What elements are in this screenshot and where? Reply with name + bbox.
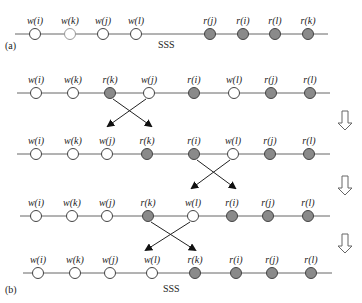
swap-arrows-b3 (146, 222, 195, 250)
read-node (227, 211, 238, 222)
read-node (231, 268, 242, 279)
node-label: w(i) (30, 254, 47, 266)
node-label: r(i) (229, 254, 243, 266)
node-label: r(j) (264, 74, 278, 86)
node-label: r(l) (268, 15, 282, 27)
sequence-row-b3: w(i)w(k)w(j)r(k)w(l)r(i)r(j)r(l) (20, 197, 330, 222)
write-node (31, 149, 42, 160)
node-label: w(k) (61, 15, 79, 27)
node-label: w(i) (27, 15, 44, 27)
node-label: r(l) (304, 254, 318, 266)
read-node (267, 268, 278, 279)
sss-label-b: SSS (163, 283, 180, 294)
write-node (131, 29, 142, 40)
write-node (188, 211, 199, 222)
node-label: w(i) (28, 197, 45, 209)
write-node (31, 88, 42, 99)
sequence-row-a: w(i)w(k)w(j)w(l)r(j)r(i)r(l)r(k) (15, 15, 328, 40)
read-node (266, 88, 277, 99)
step-down-arrow-icon (338, 176, 352, 195)
read-node (142, 149, 153, 160)
node-label: r(i) (187, 135, 201, 147)
node-label: r(l) (303, 74, 317, 86)
write-node (144, 88, 155, 99)
read-node (143, 211, 154, 222)
node-label: r(l) (302, 135, 316, 147)
write-node (102, 149, 113, 160)
write-node (70, 268, 81, 279)
node-label: r(k) (141, 197, 157, 209)
read-node (265, 149, 276, 160)
node-label: r(l) (301, 197, 315, 209)
node-label: w(k) (63, 197, 81, 209)
node-label: w(i) (28, 135, 45, 147)
swap-arrows-b1 (108, 99, 151, 126)
write-node (102, 211, 113, 222)
node-label: w(l) (225, 135, 242, 147)
node-label: w(k) (66, 254, 84, 266)
read-node (205, 29, 216, 40)
read-node (306, 268, 317, 279)
panel-b-label: (b) (5, 284, 17, 296)
sss-label-a: SSS (158, 39, 175, 50)
node-label: w(l) (226, 74, 243, 86)
node-label: w(l) (128, 15, 145, 27)
read-node (263, 211, 274, 222)
panel-a-label: (a) (5, 40, 16, 52)
swap-arrow-right (151, 222, 195, 250)
read-node (305, 88, 316, 99)
swap-arrow-right (197, 160, 235, 188)
read-node (189, 149, 200, 160)
write-node (30, 29, 41, 40)
node-label: r(j) (263, 135, 277, 147)
swap-arrows-b2 (192, 160, 235, 188)
node-label: r(j) (203, 15, 217, 27)
write-node (228, 149, 239, 160)
write-node (31, 211, 42, 222)
node-label: r(i) (187, 74, 201, 86)
node-label: w(j) (141, 74, 158, 86)
swap-arrow-left (108, 99, 146, 126)
write-node (67, 211, 78, 222)
serialization-diagram: w(i)w(k)w(j)w(l)r(j)r(i)r(l)r(k)w(i)w(k)… (0, 0, 362, 303)
read-node (190, 268, 201, 279)
node-label: r(i) (236, 15, 250, 27)
node-label: w(j) (95, 15, 112, 27)
step-down-arrow-icon (338, 234, 352, 253)
node-label: r(k) (103, 74, 119, 86)
node-label: w(l) (144, 254, 161, 266)
sequence-row-b4: w(i)w(k)w(j)w(l)r(k)r(i)r(j)r(l) (23, 254, 332, 279)
read-node (304, 149, 315, 160)
sequence-row-b1: w(i)w(k)r(k)w(j)r(i)w(l)r(j)r(l) (17, 74, 330, 99)
write-node (98, 29, 109, 40)
node-label: w(l) (185, 197, 202, 209)
node-label: w(k) (64, 135, 82, 147)
write-node (65, 29, 76, 40)
read-node (270, 29, 281, 40)
sequence-row-b2: w(i)w(k)w(j)r(k)r(i)w(l)r(j)r(l) (17, 135, 330, 160)
read-node (303, 29, 314, 40)
node-label: w(i) (28, 74, 45, 86)
node-label: r(i) (225, 197, 239, 209)
read-node (105, 88, 116, 99)
read-node (238, 29, 249, 40)
write-node (147, 268, 158, 279)
write-node (105, 268, 116, 279)
step-down-arrow-icon (338, 111, 352, 130)
node-label: r(k) (140, 135, 156, 147)
write-node (68, 88, 79, 99)
node-label: w(j) (99, 197, 116, 209)
write-node (68, 149, 79, 160)
swap-arrow-right (113, 99, 151, 126)
node-label: r(k) (188, 254, 204, 266)
read-node (189, 88, 200, 99)
node-label: w(k) (64, 74, 82, 86)
write-node (33, 268, 44, 279)
node-label: w(j) (99, 135, 116, 147)
node-label: r(k) (301, 15, 317, 27)
node-label: w(j) (102, 254, 119, 266)
node-label: r(j) (265, 254, 279, 266)
write-node (229, 88, 240, 99)
node-label: r(j) (261, 197, 275, 209)
swap-arrow-left (192, 160, 230, 188)
